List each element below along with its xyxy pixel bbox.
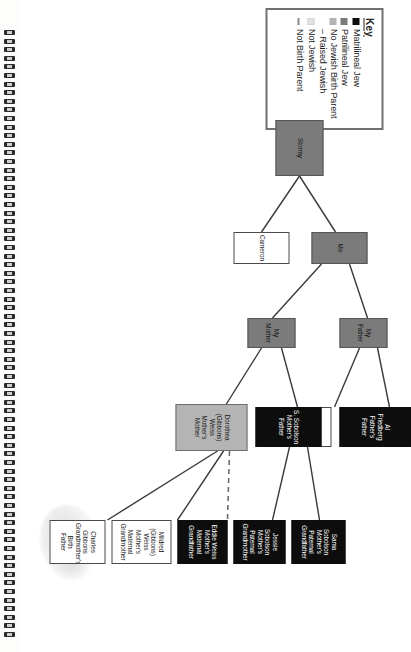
node-sama-sobolson[interactable]: Sama Sobolson Mother's Paternal Grandfat…: [291, 520, 345, 564]
edge-father-tina: [334, 348, 359, 407]
edge-dorothea-eddie-dashed: [227, 451, 229, 520]
node-label: Jessie Sobolson Mother's Paternal Grandm…: [240, 523, 278, 561]
node-al-friedberg[interactable]: Al Friedberg Father's Father: [339, 407, 411, 447]
node-mildred-gibbons-weiss[interactable]: Mildred (Gibbons) Weiss Mother's Materna…: [111, 520, 171, 564]
node-stormy[interactable]: Stormy: [275, 120, 323, 176]
node-label: Al Friedberg Father's Father: [360, 410, 390, 444]
node-me[interactable]: Me: [311, 232, 367, 264]
node-label: Stormy: [295, 123, 303, 173]
edge-ssobolson-sama: [307, 447, 319, 520]
edge-ssobolson-jessie: [272, 447, 289, 520]
edge-mother-dorothea: [224, 348, 261, 407]
edge-mother-ssobolson: [281, 348, 297, 407]
edge-father-al: [377, 348, 389, 407]
node-label: Me: [335, 235, 343, 261]
node-jessie-sobolson[interactable]: Jessie Sobolson Mother's Paternal Grandm…: [233, 520, 285, 564]
node-label: Sama Sobolson Mother's Paternal Grandfat…: [299, 523, 337, 561]
node-charles-gibbons[interactable]: Charles Gibbons Grandmother's Birth Fath…: [49, 520, 105, 564]
edge-stormy-cameron: [261, 176, 299, 232]
edge-me-father: [349, 264, 367, 318]
node-my-father[interactable]: My Father: [339, 318, 387, 348]
node-label: S. Sobolson Mother's Father: [277, 410, 300, 444]
edge-stormy-me: [299, 176, 335, 232]
node-eddie-weiss[interactable]: Eddie Weiss Mother's Maternal Grandfathe…: [177, 520, 227, 564]
node-label: Cameron: [257, 235, 265, 261]
node-label: Charles Gibbons Grandmother's Birth Fath…: [58, 523, 96, 561]
node-label: My Mother: [263, 321, 278, 345]
node-label: Dorothea (Gibbons) Weiss Mother's Mother: [192, 407, 230, 448]
node-sobolson-grandfather[interactable]: S. Sobolson Mother's Father: [255, 407, 321, 447]
node-cameron[interactable]: Cameron: [233, 232, 289, 264]
node-label: Eddie Weiss Mother's Maternal Grandfathe…: [187, 523, 217, 561]
node-label: My Father: [355, 321, 370, 345]
node-label: Mildred (Gibbons) Weiss Mother's Materna…: [118, 523, 164, 561]
edge-me-mother: [272, 264, 321, 318]
node-dorothea-gibbons-weiss[interactable]: Dorothea (Gibbons) Weiss Mother's Mother: [175, 404, 247, 451]
node-my-mother[interactable]: My Mother: [247, 318, 295, 348]
